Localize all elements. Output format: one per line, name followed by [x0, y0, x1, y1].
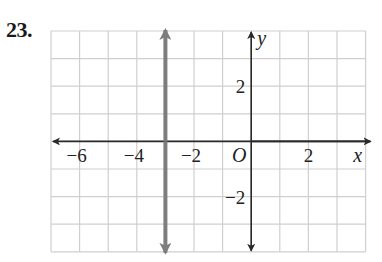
axes [53, 32, 371, 251]
origin-label: O [232, 144, 246, 166]
x-axis-label: x [352, 144, 362, 166]
x-tick-label: −6 [66, 145, 86, 166]
y-tick-label: −2 [225, 187, 245, 208]
x-tick-label: 2 [304, 145, 314, 166]
x-tick-label: −4 [124, 145, 145, 166]
coordinate-plane: −6−4−222−2Oxy [0, 0, 382, 262]
y-axis-label: y [255, 27, 266, 50]
tick-labels: −6−4−222−2Oxy [66, 27, 362, 208]
x-tick-label: −2 [181, 145, 201, 166]
y-tick-label: 2 [236, 76, 246, 97]
